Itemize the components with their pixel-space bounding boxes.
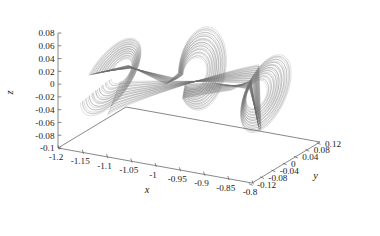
x-axis-title: x bbox=[144, 184, 150, 195]
x-tick-label: -1.2 bbox=[49, 152, 64, 162]
x-depth-edge-line bbox=[126, 107, 320, 142]
x-tick-mark bbox=[131, 159, 132, 163]
y-tick-label: 0 bbox=[291, 159, 296, 169]
x-tick-label: -1.1 bbox=[97, 161, 112, 171]
z-tick-label: 0.06 bbox=[38, 41, 54, 51]
z-tick-label: 0.04 bbox=[38, 54, 54, 64]
attractor-3d-plot: -1.2-1.15-1.1-1.05-1-0.95-0.9-0.85-0.8-0… bbox=[0, 0, 380, 236]
x-tick-mark bbox=[228, 176, 229, 180]
chart-figure: -1.2-1.15-1.1-1.05-1-0.95-0.9-0.85-0.8-0… bbox=[0, 0, 380, 236]
z-tick-label: 0.02 bbox=[38, 67, 54, 77]
y-depth-edge-line bbox=[58, 107, 126, 148]
x-tick-mark bbox=[204, 172, 205, 176]
z-axis-title: z bbox=[4, 90, 15, 95]
axis-labels-group: -1.2-1.15-1.1-1.05-1-0.95-0.9-0.85-0.8-0… bbox=[4, 28, 341, 197]
y-tick-mark bbox=[249, 184, 253, 186]
x-tick-label: -0.8 bbox=[243, 187, 258, 197]
z-tick-label: -0.02 bbox=[35, 92, 55, 102]
x-tick-label: -0.95 bbox=[168, 174, 188, 184]
x-tick-mark bbox=[82, 150, 83, 154]
x-tick-label: -0.9 bbox=[194, 178, 209, 188]
y-axis-title: y bbox=[312, 170, 318, 181]
x-tick-label: -1.05 bbox=[119, 165, 139, 175]
z-tick-label: 0 bbox=[50, 79, 55, 89]
x-tick-label: -1 bbox=[149, 170, 157, 180]
x-tick-label: -0.85 bbox=[216, 183, 236, 193]
z-tick-label: 0.08 bbox=[38, 28, 54, 38]
z-tick-label: -0.1 bbox=[40, 143, 55, 153]
attractor-orbit-group bbox=[81, 27, 292, 133]
x-tick-mark bbox=[179, 167, 180, 171]
z-tick-label: -0.04 bbox=[35, 105, 55, 115]
z-tick-label: -0.08 bbox=[35, 131, 55, 141]
y-tick-label: 0.12 bbox=[325, 139, 341, 149]
x-tick-mark bbox=[155, 163, 156, 167]
x-tick-mark bbox=[107, 154, 108, 158]
x-tick-label: -1.15 bbox=[71, 156, 91, 166]
y-tick-label: -0.04 bbox=[280, 166, 300, 176]
z-tick-label: -0.06 bbox=[35, 118, 55, 128]
